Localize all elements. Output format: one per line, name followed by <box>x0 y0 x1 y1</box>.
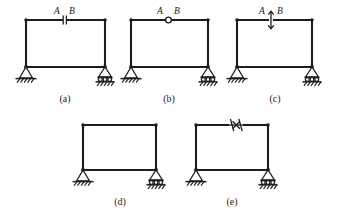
pinned-support-d <box>73 170 94 186</box>
joint-dot-tl-c <box>235 18 238 21</box>
joint-dot-tl-d <box>81 123 84 126</box>
structural-frames-figure: A B <box>0 0 339 219</box>
caption-d: (d) <box>114 196 126 208</box>
joint-dot-tr-c <box>310 18 313 21</box>
moment-hinge-symbol-b <box>166 17 172 23</box>
panel-d: (d) <box>73 123 166 208</box>
axial-release-symbol-e <box>228 119 244 131</box>
joint-dot-tr-b <box>206 18 209 21</box>
caption-a: (a) <box>59 93 70 105</box>
node-label-A-a: A <box>53 6 60 16</box>
caption-c: (c) <box>269 93 280 105</box>
shear-release-symbol-a <box>63 16 66 25</box>
roller-support-e <box>259 170 278 189</box>
joint-dot-tr-a <box>103 18 106 21</box>
pinned-support-b <box>121 67 142 83</box>
caption-b: (b) <box>163 93 175 105</box>
roller-support-d <box>147 170 166 189</box>
roller-support-b <box>199 67 218 86</box>
joint-dot-tl-e <box>194 123 197 126</box>
node-label-B-b: B <box>174 6 180 16</box>
joint-dot-tr-e <box>266 123 269 126</box>
panel-b: A B <box>121 6 218 105</box>
caption-e: (e) <box>226 196 237 208</box>
node-label-A-c: A <box>258 6 265 16</box>
pinned-support-e <box>186 170 207 186</box>
pinned-support-a <box>16 67 37 83</box>
node-label-B-a: B <box>69 6 75 16</box>
panel-a: A B <box>16 6 115 105</box>
joint-dot-tl-a <box>24 18 27 21</box>
joint-dot-tl-b <box>129 18 132 21</box>
node-label-A-b: A <box>156 6 163 16</box>
panel-c: A B <box>227 6 322 105</box>
panel-e: (e) <box>186 119 278 208</box>
roller-support-c <box>303 67 322 86</box>
pinned-support-c <box>227 67 248 83</box>
roller-support-a <box>96 67 115 86</box>
node-label-B-c: B <box>277 6 283 16</box>
joint-dot-tr-d <box>154 123 157 126</box>
